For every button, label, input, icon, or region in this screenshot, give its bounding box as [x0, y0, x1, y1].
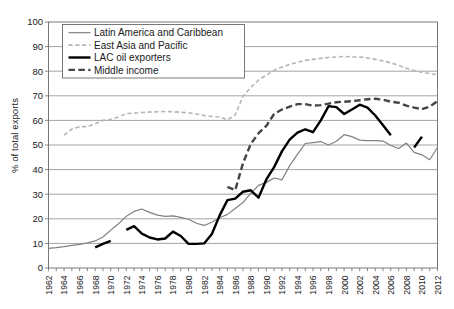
- x-axis-tick-label: 1964: [59, 275, 69, 294]
- legend-label: Latin America and Caribbean: [94, 27, 223, 38]
- y-axis-tick-label: 60: [32, 115, 43, 126]
- x-axis-tick-label: 1974: [137, 275, 147, 294]
- y-axis-tick-label: 50: [32, 139, 43, 150]
- y-axis-tick-label: 10: [32, 238, 43, 249]
- x-axis-tick-label: 1982: [200, 275, 210, 294]
- y-axis-tick-label: 0: [38, 262, 43, 273]
- x-axis-tick-label: 1990: [262, 275, 272, 294]
- y-axis-tick-label: 20: [32, 213, 43, 224]
- y-axis-title: % of total exports: [6, 0, 24, 270]
- series-line: [126, 105, 391, 244]
- x-axis-tick-label: 1972: [122, 275, 132, 294]
- x-axis-tick-label: 2002: [355, 275, 365, 294]
- x-axis-tick-label: 1992: [277, 275, 287, 294]
- x-axis-tick-label: 2004: [371, 275, 381, 294]
- y-axis-tick-label: 80: [32, 66, 43, 77]
- chart-container: % of total exports 100908070605040302010…: [0, 0, 454, 309]
- y-axis-tick-label: 90: [32, 41, 43, 52]
- y-axis-title-text: % of total exports: [10, 97, 21, 172]
- x-axis-tick-label: 2006: [386, 275, 396, 294]
- x-axis-tick-label: 1966: [75, 275, 85, 294]
- x-axis-tick-label: 2000: [340, 275, 350, 294]
- y-axis-tick-label: 70: [32, 90, 43, 101]
- x-axis-tick-label: 1986: [231, 275, 241, 294]
- line-chart-svg: 1009080706050403020100196219641966196819…: [0, 0, 454, 309]
- x-axis-tick-label: 2010: [417, 275, 427, 294]
- y-axis-tick-label: 30: [32, 189, 43, 200]
- x-axis-tick-label: 1976: [153, 275, 163, 294]
- legend-label: LAC oil exporters: [94, 52, 171, 63]
- x-axis-tick-label: 1994: [293, 275, 303, 294]
- x-axis-tick-label: 1962: [44, 275, 54, 294]
- x-axis-tick-label: 1984: [215, 275, 225, 294]
- series-line: [414, 137, 422, 148]
- y-axis-tick-label: 40: [32, 164, 43, 175]
- x-axis-tick-label: 1968: [91, 275, 101, 294]
- x-axis-tick-label: 1988: [246, 275, 256, 294]
- x-axis-tick-label: 1970: [106, 275, 116, 294]
- series-line: [95, 241, 111, 247]
- x-axis-tick-label: 2008: [402, 275, 412, 294]
- series-line: [227, 99, 437, 191]
- y-axis-tick-label: 100: [27, 16, 43, 27]
- x-axis-tick-label: 1998: [324, 275, 334, 294]
- legend-label: East Asia and Pacific: [94, 40, 187, 51]
- x-axis-tick-label: 1978: [168, 275, 178, 294]
- x-axis-tick-label: 2012: [433, 275, 443, 294]
- x-axis-tick-label: 1980: [184, 275, 194, 294]
- x-axis-tick-label: 1996: [308, 275, 318, 294]
- legend-label: Middle income: [94, 65, 159, 76]
